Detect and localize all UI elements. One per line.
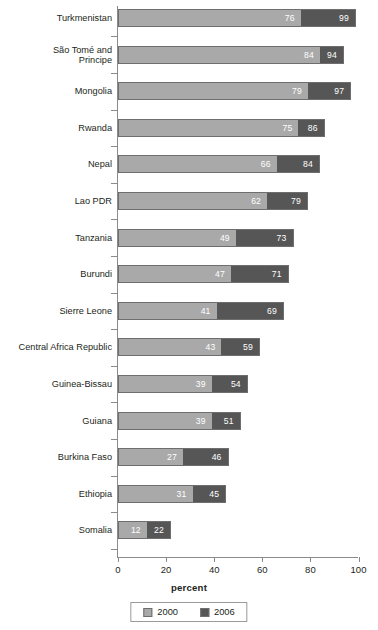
x-axis-tick — [214, 557, 215, 562]
bar-value-2006: 84 — [303, 159, 319, 169]
legend-item-2000[interactable]: 2000 — [143, 607, 178, 617]
bar-segment-2000[interactable]: 27 — [118, 448, 183, 466]
stacked-bar[interactable]: 7997 — [118, 82, 351, 100]
bar-row: Turkmenistan7699 — [0, 9, 378, 27]
bar-row: Lao PDR6279 — [0, 192, 378, 210]
bar-segment-2006[interactable]: 86 — [298, 119, 324, 137]
bar-segment-2006[interactable]: 99 — [301, 9, 356, 27]
category-label: Ethiopia — [0, 489, 112, 500]
x-axis-tick-label: 20 — [161, 564, 172, 575]
bar-value-2006: 69 — [267, 306, 283, 316]
bar-value-2006: 94 — [327, 50, 343, 60]
bar-row: Ethiopia3145 — [0, 485, 378, 503]
bar-value-2000: 66 — [261, 159, 277, 169]
stacked-bar[interactable]: 8494 — [118, 46, 344, 64]
stacked-bar[interactable]: 4359 — [118, 338, 260, 356]
bar-chart: Turkmenistan7699São Tomé and Principe849… — [0, 0, 378, 630]
bar-segment-2006[interactable]: 94 — [320, 46, 344, 64]
stacked-bar[interactable]: 6684 — [118, 155, 320, 173]
bar-segment-2006[interactable]: 97 — [308, 82, 351, 100]
bar-segment-2006[interactable]: 79 — [267, 192, 308, 210]
bar-row: Nepal6684 — [0, 155, 378, 173]
stacked-bar[interactable]: 4973 — [118, 229, 294, 247]
stacked-bar[interactable]: 7699 — [118, 9, 356, 27]
x-axis-tick — [262, 557, 263, 562]
bar-segment-2000[interactable]: 49 — [118, 229, 236, 247]
y-axis-tick — [111, 329, 117, 330]
category-label: Lao PDR — [0, 196, 112, 207]
y-axis-tick — [111, 110, 117, 111]
category-label: Burkina Faso — [0, 452, 112, 463]
bar-value-2000: 79 — [292, 86, 308, 96]
y-axis-tick — [111, 146, 117, 147]
bar-segment-2006[interactable]: 84 — [277, 155, 320, 173]
bar-segment-2000[interactable]: 79 — [118, 82, 308, 100]
bar-value-2000: 31 — [177, 489, 193, 499]
y-axis-tick — [111, 293, 117, 294]
legend-label-2000: 2000 — [157, 607, 178, 617]
stacked-bar[interactable]: 3145 — [118, 485, 226, 503]
bar-segment-2006[interactable]: 69 — [217, 302, 284, 320]
bar-value-2006: 97 — [334, 86, 350, 96]
bar-value-2000: 75 — [282, 123, 298, 133]
stacked-bar[interactable]: 3954 — [118, 375, 248, 393]
bar-segment-2006[interactable]: 46 — [183, 448, 229, 466]
bar-row: Somalia1222 — [0, 521, 378, 539]
bar-segment-2000[interactable]: 12 — [118, 521, 147, 539]
category-label: Somalia — [0, 525, 112, 536]
stacked-bar[interactable]: 4771 — [118, 265, 289, 283]
bar-segment-2006[interactable]: 54 — [212, 375, 248, 393]
stacked-bar[interactable]: 3951 — [118, 412, 241, 430]
bar-segment-2000[interactable]: 47 — [118, 265, 231, 283]
y-axis-tick — [111, 36, 117, 37]
bar-row: Burundi4771 — [0, 265, 378, 283]
bar-value-2000: 62 — [251, 196, 267, 206]
legend-label-2006: 2006 — [214, 607, 235, 617]
bar-value-2006: 45 — [209, 489, 225, 499]
y-axis-tick — [111, 219, 117, 220]
bar-row: Mongolia7997 — [0, 82, 378, 100]
legend-swatch-2006-icon — [200, 608, 209, 617]
bar-segment-2006[interactable]: 51 — [212, 412, 241, 430]
bar-row: Sierre Leone4169 — [0, 302, 378, 320]
x-axis-tick — [166, 557, 167, 562]
bar-segment-2006[interactable]: 59 — [221, 338, 259, 356]
bar-segment-2000[interactable]: 76 — [118, 9, 301, 27]
legend-swatch-2000-icon — [143, 608, 152, 617]
stacked-bar[interactable]: 4169 — [118, 302, 284, 320]
bar-segment-2000[interactable]: 31 — [118, 485, 193, 503]
category-label: Central Africa Republic — [0, 342, 112, 353]
y-axis-tick — [111, 366, 117, 367]
bar-value-2006: 79 — [291, 196, 307, 206]
bar-segment-2000[interactable]: 75 — [118, 119, 298, 137]
bar-segment-2000[interactable]: 41 — [118, 302, 217, 320]
chart-legend: 2000 2006 — [130, 602, 247, 622]
bar-value-2006: 59 — [243, 342, 259, 352]
bar-row: Burkina Faso2746 — [0, 448, 378, 466]
x-axis-tick — [310, 557, 311, 562]
bar-segment-2000[interactable]: 43 — [118, 338, 221, 356]
stacked-bar[interactable]: 2746 — [118, 448, 229, 466]
bar-segment-2000[interactable]: 84 — [118, 46, 320, 64]
bar-segment-2006[interactable]: 45 — [193, 485, 227, 503]
x-axis-tick-label: 40 — [209, 564, 220, 575]
bar-segment-2006[interactable]: 22 — [147, 521, 171, 539]
legend-item-2006[interactable]: 2006 — [200, 607, 235, 617]
stacked-bar[interactable]: 6279 — [118, 192, 308, 210]
y-axis-tick — [111, 183, 117, 184]
stacked-bar[interactable]: 7586 — [118, 119, 325, 137]
category-label: Guinea-Bissau — [0, 379, 112, 390]
bar-row: Rwanda7586 — [0, 119, 378, 137]
bar-value-2000: 39 — [196, 416, 212, 426]
bar-row: Guiana3951 — [0, 412, 378, 430]
bar-segment-2006[interactable]: 73 — [236, 229, 294, 247]
bar-segment-2000[interactable]: 62 — [118, 192, 267, 210]
bar-value-2000: 39 — [196, 379, 212, 389]
bar-segment-2000[interactable]: 39 — [118, 412, 212, 430]
bar-segment-2006[interactable]: 71 — [231, 265, 289, 283]
bar-value-2006: 54 — [231, 379, 247, 389]
x-axis-tick — [118, 557, 119, 562]
stacked-bar[interactable]: 1222 — [118, 521, 171, 539]
bar-segment-2000[interactable]: 66 — [118, 155, 277, 173]
bar-segment-2000[interactable]: 39 — [118, 375, 212, 393]
